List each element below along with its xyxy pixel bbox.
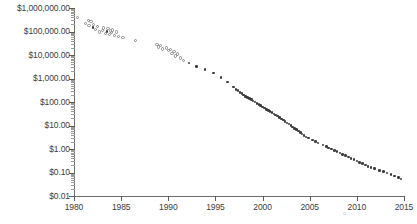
data-point	[400, 178, 403, 181]
data-point	[336, 150, 339, 153]
data-point	[87, 24, 90, 27]
page-artifact-mark: o	[343, 210, 346, 216]
data-point	[212, 72, 215, 75]
data-point	[353, 158, 356, 161]
data-point	[134, 39, 137, 42]
data-point	[188, 62, 191, 65]
data-point	[378, 169, 381, 172]
data-point	[307, 137, 310, 140]
data-point	[226, 81, 229, 84]
data-point	[204, 68, 207, 71]
data-point	[117, 35, 120, 38]
data-point	[113, 34, 116, 37]
data-point	[169, 48, 172, 51]
data-point	[317, 142, 320, 145]
data-point	[382, 170, 385, 173]
data-point	[322, 144, 325, 147]
data-point	[220, 76, 223, 79]
data-point	[115, 30, 118, 33]
data-point	[111, 28, 114, 31]
data-point	[176, 52, 179, 55]
data-point	[96, 25, 99, 28]
data-point	[76, 16, 79, 19]
data-point	[390, 173, 393, 176]
data-point	[94, 28, 97, 31]
data-point	[195, 65, 198, 68]
data-point	[373, 167, 376, 170]
data-point	[102, 26, 105, 29]
data-point	[182, 59, 185, 62]
data-point	[161, 47, 164, 50]
data-point	[370, 166, 373, 169]
data-point	[121, 36, 124, 39]
data-point	[92, 23, 95, 26]
data-point	[84, 22, 87, 25]
data-point	[386, 172, 389, 175]
scatter-points-layer	[0, 0, 417, 224]
chart-container: $1,000,000.00$100,000.00$10,000.00$1,000…	[0, 0, 417, 224]
data-point	[172, 50, 175, 53]
data-point	[393, 175, 396, 178]
